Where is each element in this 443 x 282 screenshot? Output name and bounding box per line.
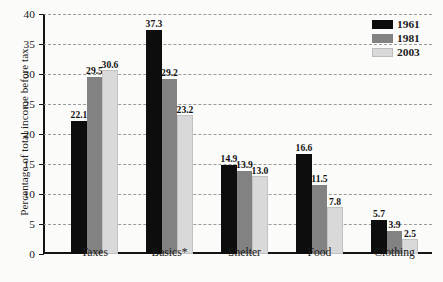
y-tick-mark [39, 74, 44, 75]
bar-value-label: 37.3 [146, 18, 163, 29]
bar: 13.0 [252, 176, 268, 254]
cropped-caption-artifact: · · [6, 0, 22, 5]
bar-group: 14.913.913.0 [221, 14, 268, 254]
y-tick-label: 25 [24, 98, 35, 110]
legend-label-1961: 1961 [397, 18, 420, 30]
legend-label-2003: 2003 [397, 46, 420, 58]
legend-item-1961: 1961 [372, 18, 420, 30]
y-tick-label: 5 [29, 218, 35, 230]
bar: 22.1 [71, 121, 87, 254]
bar-value-label: 29.2 [161, 67, 178, 78]
x-axis-label: Food [308, 246, 332, 259]
bar: 11.5 [312, 185, 328, 254]
bar-value-label: 23.2 [177, 104, 194, 115]
legend-item-2003: 2003 [372, 46, 420, 58]
bar: 37.3 [146, 30, 162, 254]
bar-value-label: 13.0 [252, 165, 269, 176]
y-tick-mark [39, 254, 44, 255]
bar-group: 22.129.530.6 [71, 14, 118, 254]
bar-group: 37.329.223.2 [146, 14, 193, 254]
y-tick-mark [39, 164, 44, 165]
y-tick-label: 0 [29, 248, 35, 260]
legend-swatch-icon-1981 [372, 34, 393, 43]
chart-legend: 1961 1981 2003 [372, 18, 420, 58]
bar-value-label: 29.5 [86, 65, 103, 76]
bar-value-label: 2.5 [404, 228, 416, 239]
x-axis-label: Basics* [151, 246, 187, 259]
legend-swatch-icon-2003 [372, 48, 393, 57]
y-tick-label: 40 [24, 8, 35, 20]
y-tick-mark [39, 104, 44, 105]
y-tick-label: 35 [24, 38, 35, 50]
legend-swatch-icon-1961 [372, 20, 393, 29]
x-axis-label: Clothing [374, 246, 415, 259]
bar: 13.9 [237, 171, 253, 254]
bar: 29.2 [162, 79, 178, 254]
bar: 14.9 [221, 165, 237, 254]
y-tick-label: 20 [24, 128, 35, 140]
y-tick-label: 15 [24, 158, 35, 170]
bar: 16.6 [296, 154, 312, 254]
y-tick-mark [39, 194, 44, 195]
y-tick-label: 30 [24, 68, 35, 80]
y-tick-mark [39, 44, 44, 45]
bar-group: 16.611.57.8 [296, 14, 343, 254]
x-axis-label: Shelter [228, 246, 261, 259]
bar: 30.6 [102, 70, 118, 254]
bar-value-label: 3.9 [389, 219, 401, 230]
bar-value-label: 5.7 [373, 208, 385, 219]
bar-value-label: 13.9 [236, 159, 253, 170]
y-tick-mark [39, 14, 44, 15]
bar-value-label: 30.6 [102, 59, 119, 70]
y-tick-label: 10 [24, 188, 35, 200]
bar-value-label: 16.6 [296, 142, 313, 153]
bar: 29.5 [87, 77, 103, 254]
x-axis-label: Taxes [81, 246, 108, 259]
legend-item-1981: 1981 [372, 32, 420, 44]
bar: 23.2 [177, 115, 193, 254]
legend-label-1981: 1981 [397, 32, 420, 44]
bar-value-label: 22.1 [71, 109, 88, 120]
y-tick-mark [39, 224, 44, 225]
bar-value-label: 14.9 [221, 153, 238, 164]
y-tick-mark [39, 134, 44, 135]
bar-value-label: 11.5 [311, 173, 327, 184]
bar-value-label: 7.8 [329, 196, 341, 207]
bar-chart: · · Percentage of total income before ta… [0, 0, 443, 282]
